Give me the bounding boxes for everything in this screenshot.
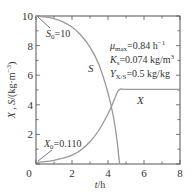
svg-text:6: 6 [28, 69, 34, 81]
svg-text:0: 0 [26, 167, 32, 179]
s-curve-label: S [88, 62, 94, 74]
s0-leader-line [38, 17, 50, 28]
svg-text:4: 4 [28, 99, 34, 111]
s0-annotation: S0=10 [46, 28, 70, 41]
yxs-annotation: YX/S=0.5 kg/kg [110, 68, 170, 81]
svg-text:8: 8 [177, 167, 183, 179]
x-curve-label: X [136, 94, 145, 106]
svg-text:2: 2 [69, 167, 75, 179]
svg-text:2: 2 [28, 128, 34, 140]
svg-text:4: 4 [105, 167, 111, 179]
ks-annotation: Ks=0.074 kg/m3 [109, 53, 175, 67]
x0-annotation: X0=0.110 [43, 138, 81, 151]
svg-text:6: 6 [141, 167, 147, 179]
chart: 02468246810 S0=10 X0=0.110 μmax=0.84 h−1… [0, 0, 192, 194]
mu-max-annotation: μmax=0.84 h−1 [109, 39, 166, 53]
svg-text:10: 10 [22, 10, 34, 22]
y-axis-label: X , S/(kg·m−3) [5, 62, 18, 120]
x-axis-label: t/h [95, 179, 106, 190]
x-curve [36, 89, 180, 162]
x0-leader-line [38, 150, 52, 161]
svg-text:8: 8 [28, 40, 34, 52]
